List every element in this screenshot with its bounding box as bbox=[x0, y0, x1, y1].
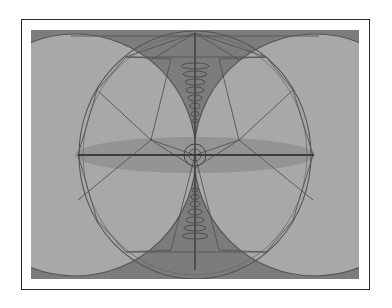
geometric-diagram bbox=[31, 30, 359, 279]
diagram-svg bbox=[31, 30, 359, 279]
